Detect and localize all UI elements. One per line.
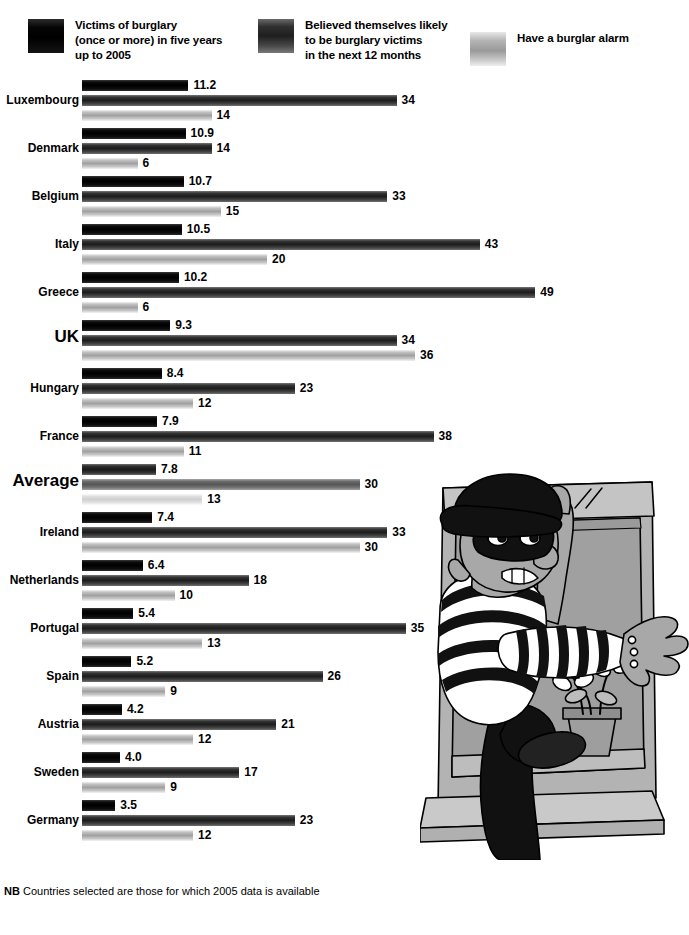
- bar-value-alarm: 9: [170, 780, 177, 794]
- bar-believed: [82, 335, 397, 346]
- bar-line-believed: 18: [82, 575, 689, 586]
- bar-group: 10.54320: [82, 224, 689, 269]
- bar-alarm: [82, 494, 202, 505]
- bar-victims: [82, 464, 156, 475]
- bar-line-alarm: 12: [82, 398, 689, 409]
- believed-swatch-icon: [258, 19, 294, 53]
- bar-victims: [82, 608, 133, 619]
- bar-line-alarm: 30: [82, 542, 689, 553]
- bar-value-believed: 33: [392, 189, 405, 203]
- category-label-germany: Germany: [0, 813, 79, 827]
- bar-value-victims: 4.0: [125, 750, 142, 764]
- bar-group: 10.73315: [82, 176, 689, 221]
- bar-victims: [82, 80, 188, 91]
- bar-value-victims: 8.4: [167, 366, 184, 380]
- bar-value-victims: 5.2: [136, 654, 153, 668]
- bar-line-alarm: 36: [82, 350, 689, 361]
- bar-line-alarm: 13: [82, 638, 689, 649]
- bar-victims: [82, 752, 120, 763]
- bar-line-believed: 17: [82, 767, 689, 778]
- bar-value-believed: 18: [254, 573, 267, 587]
- bar-line-believed: 26: [82, 671, 689, 682]
- category-label-austria: Austria: [0, 717, 79, 731]
- bar-value-victims: 5.4: [138, 606, 155, 620]
- bar-alarm: [82, 830, 193, 841]
- bar-line-believed: 33: [82, 527, 689, 538]
- bar-victims: [82, 704, 122, 715]
- bar-group: 8.42312: [82, 368, 689, 413]
- bar-believed: [82, 671, 323, 682]
- bar-line-believed: 21: [82, 719, 689, 730]
- bar-value-victims: 7.8: [161, 462, 178, 476]
- bar-line-victims: 4.0: [82, 752, 689, 763]
- bar-line-victims: 7.9: [82, 416, 689, 427]
- bar-line-alarm: 6: [82, 302, 689, 313]
- bar-victims: [82, 272, 179, 283]
- bar-believed: [82, 815, 295, 826]
- chart-row: UK9.33436: [0, 318, 689, 366]
- bar-alarm: [82, 206, 221, 217]
- bar-value-victims: 11.2: [193, 78, 216, 92]
- bar-alarm: [82, 158, 138, 169]
- bar-believed: [82, 95, 397, 106]
- bar-value-alarm: 9: [170, 684, 177, 698]
- bar-line-believed: 23: [82, 815, 689, 826]
- bar-value-victims: 7.9: [162, 414, 179, 428]
- bar-value-alarm: 11: [189, 444, 202, 458]
- chart-row: Denmark10.9146: [0, 126, 689, 174]
- chart-legend: Victims of burglary (once or more) in fi…: [0, 14, 689, 74]
- bar-group: 6.41810: [82, 560, 689, 605]
- bar-believed: [82, 239, 480, 250]
- bar-victims: [82, 128, 186, 139]
- bar-group: 9.33436: [82, 320, 689, 365]
- bar-value-believed: 33: [392, 525, 405, 539]
- bar-line-believed: 38: [82, 431, 689, 442]
- bar-victims: [82, 656, 131, 667]
- bar-believed: [82, 719, 276, 730]
- chart-row: Greece10.2496: [0, 270, 689, 318]
- chart-row: Luxembourg11.23414: [0, 78, 689, 126]
- bar-value-alarm: 14: [217, 108, 230, 122]
- bar-alarm: [82, 686, 165, 697]
- bar-alarm: [82, 542, 360, 553]
- category-label-portugal: Portugal: [0, 621, 79, 635]
- chart-row: Spain5.2269: [0, 654, 689, 702]
- bar-line-victims: 10.9: [82, 128, 689, 139]
- bar-value-believed: 49: [540, 285, 553, 299]
- bar-believed: [82, 767, 239, 778]
- legend-item-victims: Victims of burglary (once or more) in fi…: [28, 18, 222, 63]
- chart-row: Austria4.22112: [0, 702, 689, 750]
- bar-value-victims: 6.4: [148, 558, 165, 572]
- alarm-swatch-icon: [470, 32, 506, 66]
- bar-alarm: [82, 446, 184, 457]
- bar-value-believed: 43: [485, 237, 498, 251]
- bar-group: 7.43330: [82, 512, 689, 557]
- category-label-spain: Spain: [0, 669, 79, 683]
- chart-row: Belgium10.73315: [0, 174, 689, 222]
- bar-victims: [82, 560, 143, 571]
- bar-value-believed: 35: [411, 621, 424, 635]
- bar-group: 7.93811: [82, 416, 689, 461]
- legend-item-alarm: Have a burglar alarm: [470, 31, 629, 66]
- bar-line-alarm: 13: [82, 494, 689, 505]
- bar-line-alarm: 15: [82, 206, 689, 217]
- bar-value-believed: 14: [217, 141, 230, 155]
- chart-row: France7.93811: [0, 414, 689, 462]
- bar-line-believed: 33: [82, 191, 689, 202]
- bar-line-believed: 30: [82, 479, 689, 490]
- bar-value-alarm: 12: [198, 732, 211, 746]
- category-label-belgium: Belgium: [0, 189, 79, 203]
- chart-row: Average7.83013: [0, 462, 689, 510]
- bar-alarm: [82, 110, 212, 121]
- bar-value-victims: 10.5: [187, 222, 210, 236]
- bar-group: 10.2496: [82, 272, 689, 317]
- footnote-text: Countries selected are those for which 2…: [20, 885, 320, 897]
- bar-value-alarm: 12: [198, 396, 211, 410]
- bar-line-alarm: 6: [82, 158, 689, 169]
- bar-value-victims: 4.2: [127, 702, 144, 716]
- bar-line-victims: 10.5: [82, 224, 689, 235]
- bar-value-believed: 17: [244, 765, 257, 779]
- bar-victims: [82, 416, 157, 427]
- bar-line-believed: 23: [82, 383, 689, 394]
- bar-line-victims: 7.8: [82, 464, 689, 475]
